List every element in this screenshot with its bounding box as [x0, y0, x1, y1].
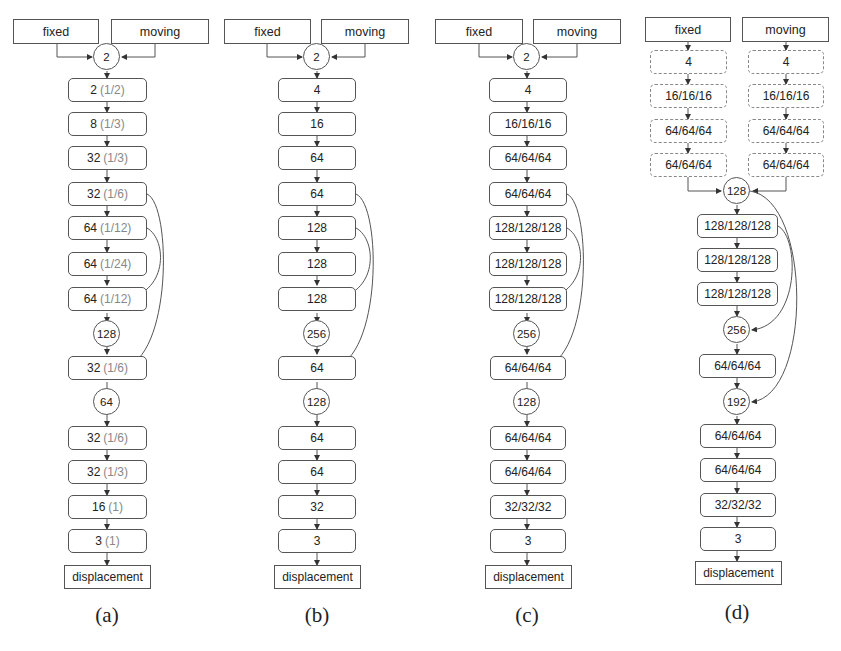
fixed-input-box: fixed: [645, 17, 731, 42]
conv-layer: 128/128/128: [489, 252, 567, 276]
merge-concat-node: 2: [303, 43, 330, 70]
fixed-branch-layer: 4: [650, 50, 727, 74]
conv-layer: 128: [278, 252, 356, 276]
conv-layer: 32/32/32: [700, 493, 776, 517]
fixed-input-box: fixed: [13, 19, 99, 44]
fraction: (1/3): [100, 117, 125, 131]
conv-layer: 128: [278, 287, 356, 311]
conv-layer: 32(1/6): [68, 426, 147, 450]
skip-concat-node: 192: [723, 388, 750, 415]
skip-concat-node: 256: [513, 320, 540, 347]
skip-concat-node: 128: [303, 388, 330, 415]
panel-caption: (c): [515, 603, 538, 628]
conv-layer: 4: [489, 78, 567, 102]
conv-layer: 128: [278, 216, 356, 240]
fixed-input-box: fixed: [435, 19, 523, 44]
conv-layer: 16: [278, 112, 356, 136]
fraction: (1/6): [103, 187, 128, 201]
moving-branch-layer: 64/64/64: [748, 119, 824, 143]
conv-layer: 64/64/64: [700, 458, 776, 482]
merge-concat-node: 2: [513, 43, 540, 70]
conv-layer: 128/128/128: [697, 248, 778, 272]
conv-layer: 64: [278, 460, 356, 484]
conv-layer: 64/64/64: [489, 146, 567, 170]
fraction: (1/6): [103, 361, 128, 375]
conv-layer: 3: [490, 529, 566, 553]
conv-layer: 16(1): [68, 495, 147, 519]
conv-layer: 4: [278, 78, 356, 102]
displacement-output-box: displacement: [274, 565, 361, 589]
skip-concat-node: 128: [513, 388, 540, 415]
channels: 32: [87, 465, 100, 479]
channels: 8: [90, 117, 97, 131]
conv-layer: 64/64/64: [489, 182, 567, 206]
channels: 2: [90, 83, 97, 97]
panel-caption: (d): [725, 600, 750, 625]
conv-layer: 64: [278, 356, 356, 380]
fraction: (1/3): [103, 151, 128, 165]
skip-concat-node: 256: [303, 320, 330, 347]
conv-layer: 64/64/64: [699, 354, 776, 378]
channels: 16: [92, 500, 105, 514]
conv-layer: 64/64/64: [700, 424, 776, 448]
conv-layer: 3: [700, 527, 776, 551]
conv-layer: 16/16/16: [489, 112, 567, 136]
moving-input-box: moving: [111, 19, 209, 44]
displacement-output-box: displacement: [485, 565, 572, 589]
fraction: (1/3): [103, 465, 128, 479]
conv-layer: 32(1/3): [68, 146, 147, 170]
channels: 64: [84, 221, 97, 235]
conv-layer: 32(1/6): [68, 356, 147, 380]
merge-concat-node: 2: [93, 43, 120, 70]
fraction: (1/12): [100, 221, 131, 235]
fixed-branch-layer: 64/64/64: [650, 153, 727, 177]
channels: 32: [87, 361, 100, 375]
conv-layer: 128/128/128: [697, 282, 778, 306]
conv-layer: 64/64/64: [490, 426, 566, 450]
conv-layer: 128/128/128: [489, 216, 567, 240]
conv-layer: 128/128/128: [697, 214, 778, 238]
channels: 32: [87, 187, 100, 201]
conv-layer: 3(1): [68, 529, 147, 553]
moving-input-box: moving: [533, 19, 621, 44]
conv-layer: 64/64/64: [490, 460, 566, 484]
fraction: (1/6): [103, 431, 128, 445]
conv-layer: 8(1/3): [68, 112, 147, 136]
panel-caption: (a): [95, 603, 118, 628]
conv-layer: 32/32/32: [490, 495, 566, 519]
conv-layer: 64(1/24): [68, 252, 147, 276]
channels: 64: [84, 292, 97, 306]
fraction: (1): [105, 534, 120, 548]
skip-concat-node: 64: [93, 388, 120, 415]
moving-input-box: moving: [321, 19, 409, 44]
channels: 32: [87, 151, 100, 165]
conv-layer: 64: [278, 146, 356, 170]
conv-layer: 32(1/6): [68, 182, 147, 206]
fraction: (1/2): [100, 83, 125, 97]
moving-branch-layer: 64/64/64: [748, 153, 824, 177]
channels: 3: [95, 534, 102, 548]
conv-layer: 64/64/64: [490, 356, 566, 380]
moving-branch-layer: 16/16/16: [748, 84, 824, 108]
conv-layer: 64(1/12): [68, 287, 147, 311]
skip-concat-node: 256: [723, 316, 750, 343]
conv-layer: 32(1/3): [68, 460, 147, 484]
conv-layer: 3: [278, 529, 356, 553]
skip-concat-node: 128: [93, 320, 120, 347]
fixed-input-box: fixed: [224, 19, 311, 44]
moving-branch-layer: 4: [748, 50, 824, 74]
panel-caption: (b): [305, 603, 330, 628]
displacement-output-box: displacement: [64, 565, 151, 589]
fraction: (1/12): [100, 292, 131, 306]
fraction: (1/24): [100, 257, 131, 271]
channels: 64: [84, 257, 97, 271]
fixed-branch-layer: 16/16/16: [650, 84, 727, 108]
moving-input-box: moving: [742, 17, 829, 42]
fixed-branch-layer: 64/64/64: [650, 119, 727, 143]
conv-layer: 64: [278, 182, 356, 206]
fraction: (1): [108, 500, 123, 514]
displacement-output-box: displacement: [695, 561, 782, 585]
conv-layer: 32: [278, 495, 356, 519]
channels: 32: [87, 431, 100, 445]
merge-concat-node: 128: [723, 177, 750, 204]
